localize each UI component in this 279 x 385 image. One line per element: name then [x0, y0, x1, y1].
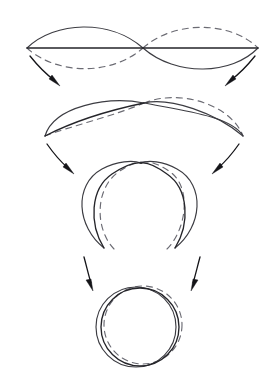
arrow-right-2-head	[212, 163, 223, 174]
stage-1-dashed-lobe-left	[27, 48, 143, 69]
transition-2-arrows	[47, 144, 239, 174]
arrow-left-2	[47, 144, 74, 174]
arrow-left-2-head	[63, 163, 74, 174]
transformation-diagram	[0, 0, 279, 385]
stage-4-solid-circle-outer	[96, 287, 176, 367]
stage-2-dashed-arc-left	[45, 103, 144, 136]
arrow-left-1-shaft	[30, 56, 54, 80]
stage-2-dashed-arc-right	[144, 98, 243, 136]
arrow-right-1-head	[225, 75, 236, 86]
arrow-right-3	[191, 257, 200, 291]
diagram-canvas	[0, 0, 279, 385]
stage-1-solid-lobe-left	[27, 27, 143, 48]
stage-3-closing-loop	[82, 161, 197, 249]
transition-1-arrows	[30, 56, 255, 86]
stage-2-solid-outer-right	[144, 103, 243, 136]
stage-4-circle	[96, 286, 182, 367]
stage-3-dashed-arc-right	[142, 162, 184, 249]
stage-1-lemniscate	[27, 27, 258, 69]
stage-4-solid-circle-inner	[101, 288, 179, 366]
arrow-right-3-head	[191, 279, 198, 291]
arrow-left-3-head	[86, 279, 93, 291]
stage-1-solid-lobe-right	[143, 48, 258, 69]
arrow-right-2	[212, 144, 239, 174]
stage-3-dashed-arc-left	[100, 162, 142, 249]
stage-3-solid-outer-right	[141, 161, 197, 248]
arrow-left-1-head	[49, 75, 60, 86]
stage-2-solid-inner-right	[144, 102, 243, 136]
stage-3-solid-inner-right	[141, 163, 185, 248]
stage-2-opening	[45, 98, 243, 136]
stage-1-dashed-lobe-right	[143, 27, 258, 48]
arrow-left-3	[84, 257, 93, 291]
